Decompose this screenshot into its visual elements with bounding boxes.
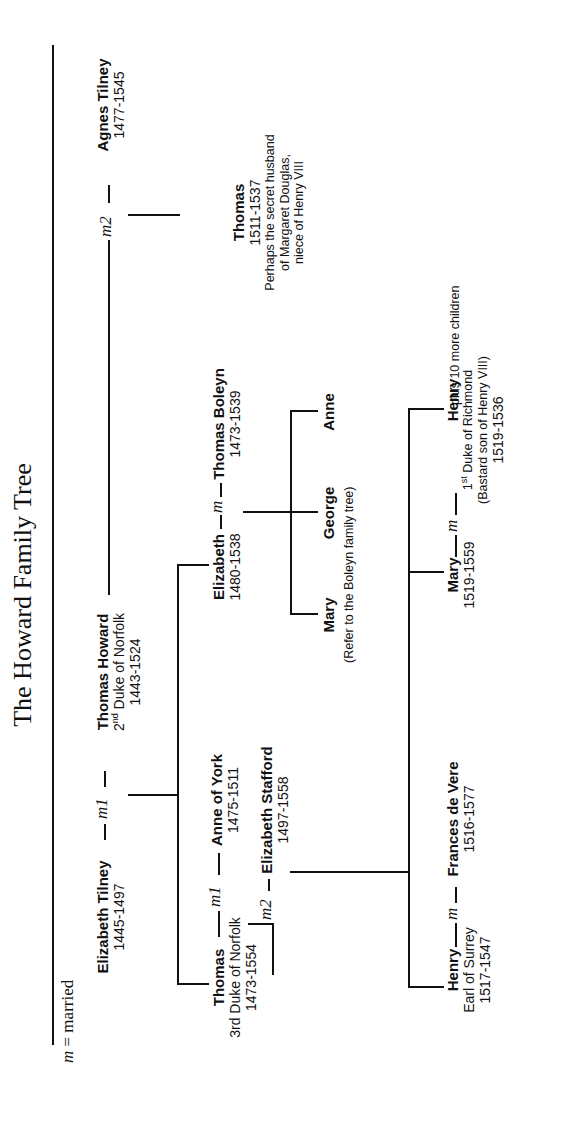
marriage-label-m1: m1 bbox=[92, 798, 112, 819]
person-name: Thomas Howard bbox=[94, 597, 111, 747]
person-anne-of-york: Anne of York 1475-1511 bbox=[208, 745, 241, 855]
legend-symbol: m bbox=[58, 1051, 77, 1063]
person-dates: 1497-1558 bbox=[275, 735, 291, 885]
person-name: Frances de Vere bbox=[444, 749, 461, 889]
marriage-line bbox=[248, 923, 274, 925]
person-name: Elizabeth bbox=[210, 517, 227, 617]
descent-line bbox=[408, 408, 444, 410]
person-dates: 1480-1538 bbox=[227, 517, 243, 617]
marriage-label-m: m bbox=[207, 501, 227, 513]
person-dates: 1519-1559 bbox=[461, 530, 477, 620]
person-name: Henry bbox=[444, 910, 461, 1030]
person-name: Elizabeth Tilney bbox=[94, 847, 111, 987]
child-mary-boleyn: Mary bbox=[320, 583, 337, 647]
marriage-label-m: m bbox=[442, 908, 462, 920]
sibling-line bbox=[408, 408, 410, 988]
descent-line bbox=[290, 613, 318, 615]
person-frances-de-vere: Frances de Vere 1516-1577 bbox=[444, 749, 477, 889]
descent-line bbox=[128, 214, 180, 216]
page-title: The Howard Family Tree bbox=[8, 395, 38, 795]
marriage-line bbox=[220, 515, 222, 529]
person-name: Elizabeth Stafford bbox=[258, 735, 275, 885]
child-george-boleyn: George bbox=[320, 481, 337, 545]
person-dates: 1477-1545 bbox=[111, 35, 127, 175]
marriage-label-m2: m2 bbox=[256, 899, 276, 920]
person-elizabeth-tilney: Elizabeth Tilney 1445-1497 bbox=[94, 847, 127, 987]
marriage-line bbox=[104, 771, 106, 787]
sibling-line bbox=[177, 564, 179, 985]
person-dates: 1473-1539 bbox=[227, 359, 243, 489]
person-name: Thomas Boleyn bbox=[210, 359, 227, 489]
legend-text: = married bbox=[58, 980, 77, 1051]
top-rule-divider bbox=[52, 45, 54, 1045]
boleyn-reference-note: (Refer to the Boleyn family tree) bbox=[342, 487, 356, 663]
descent-line bbox=[177, 983, 209, 985]
marriage-line bbox=[272, 923, 274, 975]
marriage-line bbox=[455, 887, 457, 903]
family-tree-canvas: The Howard Family Tree m = married Eliza… bbox=[0, 0, 573, 1125]
person-title: 1st Duke of Richmond bbox=[461, 325, 475, 535]
marriage-line bbox=[455, 535, 457, 557]
marriage-label-m2: m2 bbox=[96, 216, 116, 237]
descent-line bbox=[177, 564, 209, 566]
person-note-line: niece of Henry VIII bbox=[292, 130, 306, 295]
person-name: Thomas bbox=[230, 130, 247, 295]
descent-line bbox=[290, 511, 318, 513]
marriage-line bbox=[108, 240, 110, 595]
marriage-label-m1: m1 bbox=[205, 886, 225, 907]
person-dates: 1473-1554 bbox=[243, 910, 259, 1045]
child-anne-boleyn: Anne bbox=[320, 380, 337, 444]
person-dates: 1511-1537 bbox=[247, 130, 263, 295]
descent-line bbox=[290, 410, 318, 412]
person-note: (Bastard son of Henry VIII) bbox=[476, 325, 490, 535]
person-mary-howard: Mary 1519-1559 bbox=[444, 530, 477, 620]
person-elizabeth-stafford: Elizabeth Stafford 1497-1558 bbox=[258, 735, 291, 885]
person-dates: 1516-1577 bbox=[461, 749, 477, 889]
person-thomas-howard-2nd-duke: Thomas Howard 2nd Duke of Norfolk 1443-1… bbox=[94, 597, 143, 747]
person-dates: 1475-1511 bbox=[225, 745, 241, 855]
person-thomas-1511: Thomas 1511-1537 Perhaps the secret husb… bbox=[230, 130, 306, 295]
descent-line bbox=[408, 571, 444, 573]
person-dates: 1445-1497 bbox=[111, 847, 127, 987]
person-name: Agnes Tilney bbox=[94, 35, 111, 175]
more-children-note: plus 10 more children bbox=[448, 285, 462, 405]
descent-line bbox=[408, 986, 444, 988]
person-title: Earl of Surrey bbox=[461, 910, 477, 1030]
person-elizabeth-howard: Elizabeth 1480-1538 bbox=[210, 517, 243, 617]
marriage-line bbox=[108, 185, 110, 203]
descent-line bbox=[128, 794, 178, 796]
marriage-line bbox=[104, 824, 106, 840]
person-thomas-boleyn: Thomas Boleyn 1473-1539 bbox=[210, 359, 243, 489]
person-title: 3rd Duke of Norfolk bbox=[227, 910, 243, 1045]
person-agnes-tilney: Agnes Tilney 1477-1545 bbox=[94, 35, 127, 175]
marriage-line bbox=[218, 911, 220, 937]
marriage-line bbox=[455, 923, 457, 947]
person-title: 2nd Duke of Norfolk bbox=[111, 597, 127, 747]
person-note-line: of Margaret Douglas, bbox=[278, 130, 292, 295]
descent-line bbox=[243, 511, 291, 513]
person-note-line: Perhaps the secret husband bbox=[263, 130, 277, 295]
person-name: Anne of York bbox=[208, 745, 225, 855]
person-dates: 1519-1536 bbox=[490, 325, 506, 535]
person-henry-earl-of-surrey: Henry Earl of Surrey 1517-1547 bbox=[444, 910, 493, 1030]
descent-line bbox=[290, 871, 410, 873]
person-dates: 1443-1524 bbox=[127, 597, 143, 747]
legend: m = married bbox=[58, 980, 78, 1063]
marriage-line bbox=[218, 853, 220, 875]
person-name: Mary bbox=[444, 530, 461, 620]
person-dates: 1517-1547 bbox=[477, 910, 493, 1030]
